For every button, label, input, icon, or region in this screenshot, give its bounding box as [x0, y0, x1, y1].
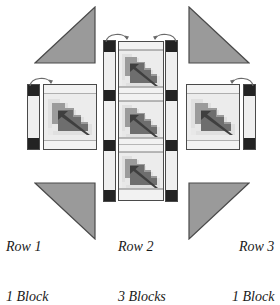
row-1-sashing-strip — [27, 84, 40, 150]
row-3-label: Row 3 1 Block — [232, 206, 274, 305]
row-1-block — [43, 84, 97, 150]
row-3-block — [186, 84, 240, 150]
row-1-count: 1 Block — [6, 289, 48, 305]
triangle-top-left — [34, 6, 96, 64]
row-3-name: Row 3 — [232, 239, 274, 256]
row-2-block-column — [118, 41, 164, 201]
row-2-assembly-arrow-right-icon — [152, 30, 178, 43]
row-1-label: Row 1 1 Block — [6, 206, 48, 305]
row-2-sashing-strip-left — [103, 40, 116, 202]
triangle-top-right — [188, 6, 250, 64]
row-2-name: Row 2 — [118, 239, 166, 256]
row-3-assembly-arrow-icon — [229, 74, 255, 87]
row-3-sashing-strip — [243, 84, 256, 150]
row-2-assembly-arrow-left-icon — [104, 30, 130, 43]
row-2-sashing-strip-right — [165, 40, 178, 202]
row-1-assembly-arrow-icon — [28, 74, 54, 87]
row-2-label: Row 2 3 Blocks — [118, 206, 166, 305]
row-1-name: Row 1 — [6, 239, 48, 256]
row-3-count: 1 Block — [232, 289, 274, 305]
row-2-count: 3 Blocks — [118, 289, 166, 305]
